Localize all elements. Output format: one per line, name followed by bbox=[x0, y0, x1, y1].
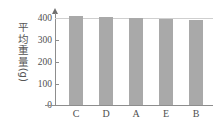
bar-series-4 bbox=[189, 20, 203, 105]
bar-series-0 bbox=[69, 16, 83, 105]
x-axis-label-2: A bbox=[126, 108, 146, 120]
y-tick-label-200: 200 bbox=[28, 58, 52, 68]
x-axis-label-1: D bbox=[96, 108, 116, 120]
y-tick-label-400: 400 bbox=[28, 14, 52, 24]
bar-chart: 平 均 重 量 (g) 400 300 200 100 0 C D A E B bbox=[0, 0, 216, 128]
x-axis-line bbox=[45, 105, 213, 106]
x-axis-label-0: C bbox=[66, 108, 86, 120]
y-axis-tick-labels: 400 300 200 100 0 bbox=[28, 0, 52, 128]
y-axis-label-char-4: 量 bbox=[18, 57, 28, 69]
x-axis-label-4: B bbox=[186, 108, 206, 120]
x-axis-category-labels: C D A E B bbox=[55, 108, 213, 124]
y-tick-label-100: 100 bbox=[28, 80, 52, 90]
bar-series-3 bbox=[159, 19, 173, 105]
x-axis-label-3: E bbox=[156, 108, 176, 120]
y-axis-label-char-1: 平 bbox=[18, 22, 28, 34]
bar-series-2 bbox=[129, 18, 143, 105]
bar-series-1 bbox=[99, 17, 113, 105]
y-tick-label-300: 300 bbox=[28, 36, 52, 46]
y-axis-label-char-3: 重 bbox=[18, 45, 28, 57]
bars-container bbox=[55, 13, 213, 105]
